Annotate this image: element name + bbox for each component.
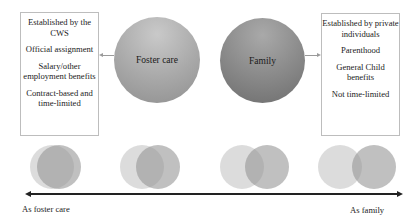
circle-dark-icon xyxy=(352,145,396,189)
foster-care-label: Foster care xyxy=(136,55,178,65)
attribute-item: Established by private individuals xyxy=(322,18,399,39)
continuum-left-label: As foster care xyxy=(22,204,70,214)
circle-dark-icon xyxy=(136,145,180,189)
attribute-item: Official assignment xyxy=(21,44,98,55)
attribute-item: Established by the CWS xyxy=(21,17,98,38)
foster-care-circle: Foster care xyxy=(114,17,200,103)
circle-dark-icon xyxy=(245,145,289,189)
foster-care-attributes-box: Established by the CWS Official assignme… xyxy=(20,12,99,136)
circle-dark-icon xyxy=(37,145,81,189)
attribute-item: Not time-limited xyxy=(322,89,399,100)
continuum-right-label: As family xyxy=(350,205,384,215)
family-attributes-box: Established by private individuals Paren… xyxy=(321,13,400,136)
attribute-item: Contract-based and time-limited xyxy=(21,88,98,109)
attribute-item: Salary/other employment benefits xyxy=(21,61,98,82)
arrow-left-icon xyxy=(102,55,114,56)
attribute-item: Parenthood xyxy=(322,45,399,56)
family-label: Family xyxy=(249,56,276,66)
family-circle: Family xyxy=(220,18,305,103)
attribute-item: General Child benefits xyxy=(322,62,399,83)
continuum-double-arrow-icon xyxy=(30,193,398,195)
arrow-right-icon xyxy=(305,55,318,56)
